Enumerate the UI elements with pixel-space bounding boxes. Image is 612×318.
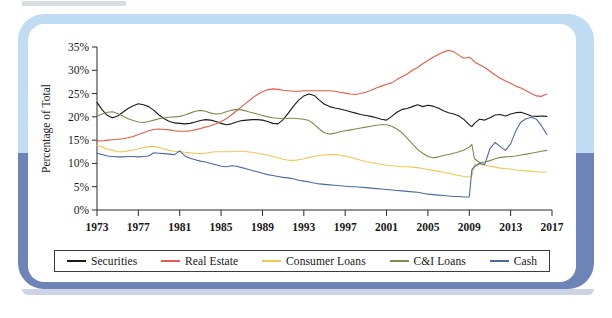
chart-legend: SecuritiesReal EstateConsumer LoansC&I L… — [54, 250, 550, 272]
y-tick-label: 25% — [68, 88, 90, 100]
legend-line-swatch — [490, 260, 509, 262]
legend-line-swatch — [161, 260, 180, 262]
chart-card: 0%5%10%15%20%25%30%35% 19731977198119851… — [28, 24, 576, 282]
series-line-consumer-loans — [97, 145, 547, 177]
x-tick-label: 1993 — [292, 221, 315, 233]
y-axis-title-text: Percentage of Total — [40, 84, 53, 173]
x-axis: 1973197719811985198919931997200120052009… — [86, 210, 564, 233]
y-tick-label: 5% — [74, 181, 90, 193]
legend-line-swatch — [67, 260, 86, 262]
line-chart: 0%5%10%15%20%25%30%35% 19731977198119851… — [28, 24, 576, 282]
frame-drop-shadow — [22, 289, 594, 295]
series-line-real-estate — [97, 50, 547, 141]
legend-item-c-i-loans[interactable]: C&I Loans — [390, 255, 466, 267]
top-edge-artifact — [22, 1, 126, 6]
legend-item-real-estate[interactable]: Real Estate — [161, 255, 238, 267]
x-tick-label: 1989 — [251, 221, 274, 233]
x-tick-label: 2005 — [416, 221, 439, 233]
x-tick-label: 1997 — [334, 221, 357, 233]
x-tick-label: 1981 — [168, 221, 191, 233]
chart-svg: 0%5%10%15%20%25%30%35% 19731977198119851… — [28, 24, 576, 282]
series-line-securities — [97, 94, 547, 127]
y-tick-label: 30% — [68, 64, 90, 76]
y-tick-label: 0% — [74, 204, 90, 216]
legend-line-swatch — [262, 260, 281, 262]
y-tick-label: 15% — [68, 134, 90, 146]
legend-label: Securities — [91, 255, 137, 267]
x-tick-label: 2009 — [458, 221, 481, 233]
x-tick-label: 2017 — [541, 221, 564, 233]
legend-label: Real Estate — [185, 255, 238, 267]
x-tick-label: 1985 — [210, 221, 233, 233]
series-line-c-i-loans — [97, 109, 547, 162]
x-tick-label: 1977 — [127, 221, 150, 233]
legend-label: Cash — [514, 255, 537, 267]
y-axis: 0%5%10%15%20%25%30%35% — [68, 41, 97, 216]
legend-item-securities[interactable]: Securities — [67, 255, 137, 267]
x-tick-label: 2013 — [499, 221, 522, 233]
x-tick-label: 1973 — [86, 221, 109, 233]
y-tick-label: 35% — [68, 41, 90, 53]
series-lines — [97, 50, 547, 197]
legend-line-swatch — [390, 260, 409, 262]
y-axis-title: Percentage of Total — [40, 84, 53, 173]
y-tick-label: 10% — [68, 157, 90, 169]
legend-label: Consumer Loans — [286, 255, 366, 267]
y-tick-label: 20% — [68, 111, 90, 123]
x-tick-label: 2001 — [375, 221, 398, 233]
legend-item-consumer-loans[interactable]: Consumer Loans — [262, 255, 366, 267]
legend-item-cash[interactable]: Cash — [490, 255, 537, 267]
legend-label: C&I Loans — [414, 255, 466, 267]
